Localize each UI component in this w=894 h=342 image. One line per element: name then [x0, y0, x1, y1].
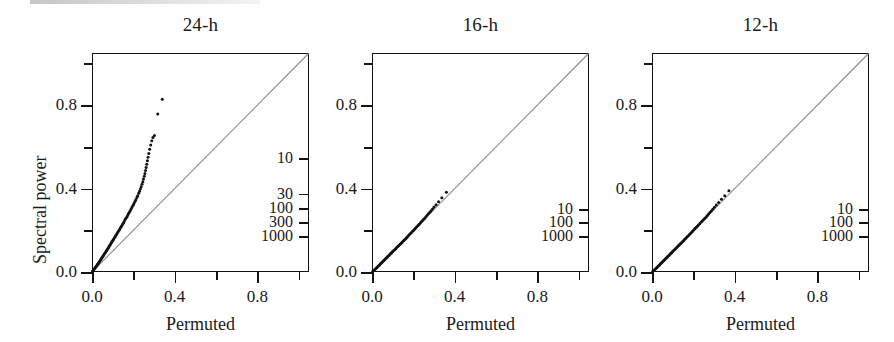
x-axis-label: 0.4 [444, 287, 465, 307]
y-axis-tick [361, 105, 372, 107]
y-axis-tick [361, 189, 372, 191]
data-point [142, 177, 145, 180]
x-axis-label: 0.0 [361, 287, 382, 307]
y-axis-label: 0.4 [592, 179, 637, 199]
data-point [143, 175, 146, 178]
x-axis-tick [735, 272, 737, 283]
data-point [717, 201, 720, 204]
y-axis-tick [364, 230, 372, 232]
rank-axis-label: 1000 [517, 227, 573, 245]
x-axis-label: 0.8 [527, 287, 548, 307]
y-axis-tick [644, 230, 652, 232]
x-axis-tick [652, 272, 654, 283]
y-axis-tick [81, 272, 92, 274]
x-axis-tick [693, 272, 695, 280]
data-point [141, 180, 144, 183]
y-axis-label: 0.0 [32, 262, 77, 282]
rank-axis-tick [299, 158, 309, 160]
x-axis-tick [537, 272, 539, 283]
rank-axis-label: 1000 [237, 227, 293, 245]
y-axis-label: 0.0 [592, 262, 637, 282]
y-axis-tick [364, 63, 372, 65]
y-axis-tick [84, 147, 92, 149]
x-axis-title: Permuted [166, 314, 235, 335]
rank-axis-tick [859, 209, 869, 211]
y-axis-tick [361, 272, 372, 274]
rank-axis-tick [579, 209, 589, 211]
rank-axis-tick [579, 236, 589, 238]
x-axis-tick [496, 272, 498, 280]
data-point-series [91, 98, 164, 273]
data-point-series [651, 189, 730, 273]
x-axis-tick [579, 272, 581, 280]
y-axis-label: 0.8 [592, 95, 637, 115]
data-point [143, 172, 146, 175]
x-axis-tick [175, 272, 177, 283]
y-axis-tick [84, 230, 92, 232]
data-point [715, 204, 718, 207]
rank-axis-tick [299, 222, 309, 224]
rank-axis-label: 1000 [797, 227, 853, 245]
x-axis-tick [216, 272, 218, 280]
x-axis-label: 0.8 [807, 287, 828, 307]
data-point [440, 196, 443, 199]
rank-axis-tick [299, 208, 309, 210]
data-point [723, 194, 726, 197]
rank-axis-tick [299, 236, 309, 238]
y-axis-label: 0.8 [312, 95, 357, 115]
x-axis-tick [776, 272, 778, 280]
data-point [435, 203, 438, 206]
data-point [149, 143, 152, 146]
panel-title: 12-h [652, 14, 869, 36]
data-point [148, 148, 151, 151]
x-axis-label: 0.0 [641, 287, 662, 307]
data-point [445, 191, 448, 194]
x-axis-label: 0.8 [247, 287, 268, 307]
y-axis-label: 0.4 [312, 179, 357, 199]
y-axis-label: 0.0 [312, 262, 357, 282]
y-axis-tick [81, 105, 92, 107]
data-point [437, 200, 440, 203]
x-axis-label: 0.4 [164, 287, 185, 307]
rank-axis-tick [859, 236, 869, 238]
data-point [153, 134, 156, 137]
x-axis-tick [817, 272, 819, 283]
x-axis-title: Permuted [726, 314, 795, 335]
data-point [146, 159, 149, 162]
x-axis-tick [257, 272, 259, 283]
y-axis-tick [364, 147, 372, 149]
data-point [144, 169, 147, 172]
data-point [150, 139, 153, 142]
y-axis-tick [84, 63, 92, 65]
y-axis-title: Spectral power [30, 156, 51, 264]
y-axis-tick [644, 63, 652, 65]
data-point [433, 205, 436, 208]
rank-axis-label: 10 [237, 149, 293, 167]
x-axis-tick [455, 272, 457, 283]
rank-axis-tick [859, 222, 869, 224]
data-point [727, 189, 730, 192]
panel-title: 16-h [372, 14, 589, 36]
y-axis-tick [81, 189, 92, 191]
qq-plot-figure: 24-h0.00.40.80.00.40.810301003001000Perm… [0, 0, 894, 342]
scan-artifact [30, 0, 260, 4]
x-axis-tick [859, 272, 861, 280]
data-point [147, 152, 150, 155]
y-axis-tick [641, 105, 652, 107]
rank-axis-tick [579, 222, 589, 224]
x-axis-tick [133, 272, 135, 280]
y-axis-label: 0.8 [32, 95, 77, 115]
data-point [720, 198, 723, 201]
panel-title: 24-h [92, 14, 309, 36]
data-point [161, 98, 164, 101]
x-axis-tick [92, 272, 94, 283]
y-axis-tick [644, 147, 652, 149]
y-axis-tick [641, 272, 652, 274]
x-axis-tick [372, 272, 374, 283]
data-point [156, 113, 159, 116]
x-axis-label: 0.0 [81, 287, 102, 307]
rank-axis-tick [299, 194, 309, 196]
data-point-series [371, 191, 448, 273]
data-point [147, 156, 150, 159]
x-axis-tick [299, 272, 301, 280]
